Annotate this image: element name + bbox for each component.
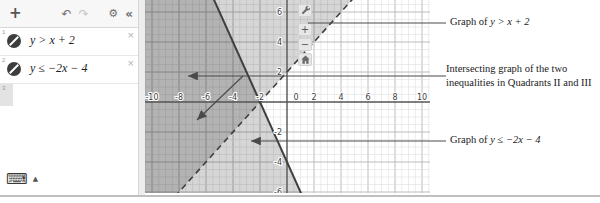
home-icon xyxy=(300,54,311,65)
annotation-line-1: Intersecting graph of the two xyxy=(446,62,592,76)
inequality-style-icon[interactable] xyxy=(7,34,21,48)
expression-row-3-empty[interactable]: 3 xyxy=(0,84,139,106)
expression-text[interactable]: y > x + 2 xyxy=(30,33,75,48)
keyboard-up-arrow-icon: ▲ xyxy=(33,176,38,183)
zoom-in-button[interactable]: + xyxy=(298,23,312,36)
annotation-graph-1: Graph of y > x + 2 xyxy=(450,16,530,27)
expression-text[interactable]: y ≤ −2x − 4 xyxy=(30,61,87,76)
annotation-area: Graph of y > x + 2 Intersecting graph of… xyxy=(430,0,600,195)
keyboard-toggle-button[interactable]: ⌨ ▲ xyxy=(6,172,38,187)
keyboard-row: ⌨ ▲ xyxy=(6,172,38,187)
graph-controls: + − xyxy=(298,4,312,68)
svg-text:-6: -6 xyxy=(274,188,282,194)
svg-text:2: 2 xyxy=(277,68,282,77)
annotation-graph-2: Graph of y ≤ −2x − 4 xyxy=(450,134,541,145)
svg-text:0: 0 xyxy=(293,93,298,102)
settings-gear-icon[interactable]: ⚙ xyxy=(108,8,118,19)
annotation-math: y ≤ −2x − 4 xyxy=(490,134,540,145)
svg-text:-2: -2 xyxy=(256,93,264,102)
svg-text:-8: -8 xyxy=(175,93,183,102)
undo-icon[interactable]: ↶ xyxy=(62,8,72,20)
svg-text:-10: -10 xyxy=(145,93,158,102)
svg-text:-2: -2 xyxy=(274,128,282,137)
svg-text:4: 4 xyxy=(277,38,282,47)
svg-text:6: 6 xyxy=(365,93,370,102)
annotation-intersection: Intersecting graph of the two inequaliti… xyxy=(446,62,592,89)
expression-list: 1 y > x + 2 × 2 y ≤ −2x − 4 × 3 xyxy=(0,28,139,106)
redo-icon[interactable]: ↷ xyxy=(79,8,89,20)
zoom-out-button[interactable]: − xyxy=(298,38,312,51)
svg-text:8: 8 xyxy=(392,93,397,102)
inequality-style-icon[interactable] xyxy=(7,62,21,76)
expression-toolbar: + ↶ ↷ ⚙ « xyxy=(0,0,139,28)
annotation-line-2: inequalities in Quadrants II and III xyxy=(446,76,592,90)
panel-resize-handle[interactable] xyxy=(138,0,145,195)
expression-index: 3 xyxy=(2,85,5,91)
desmos-screenshot-root: + ↶ ↷ ⚙ « 1 y > x + 2 × 2 y ≤ −2x − 4 × … xyxy=(0,0,600,203)
svg-text:-4: -4 xyxy=(274,158,282,167)
expression-row-1[interactable]: 1 y > x + 2 × xyxy=(0,28,139,56)
collapse-panel-icon[interactable]: « xyxy=(125,8,133,20)
expression-row-2[interactable]: 2 y ≤ −2x − 4 × xyxy=(0,56,139,84)
delete-expression-icon[interactable]: × xyxy=(128,30,134,41)
keyboard-icon: ⌨ xyxy=(6,172,28,187)
svg-text:-6: -6 xyxy=(202,93,210,102)
graph-canvas[interactable]: -10-8-6-4-20246810642-2-4-6 + − xyxy=(145,0,430,193)
svg-text:4: 4 xyxy=(338,93,343,102)
bottom-border-line xyxy=(0,195,600,197)
expression-index: 1 xyxy=(2,29,5,35)
delete-expression-icon[interactable]: × xyxy=(128,58,134,69)
graph-settings-wrench-icon[interactable] xyxy=(298,4,312,17)
annotation-math: y > x + 2 xyxy=(490,16,529,27)
annotation-prefix: Graph of xyxy=(450,16,490,27)
svg-text:-4: -4 xyxy=(229,93,237,102)
expression-panel: + ↶ ↷ ⚙ « 1 y > x + 2 × 2 y ≤ −2x − 4 × … xyxy=(0,0,145,195)
svg-text:6: 6 xyxy=(277,8,282,17)
default-view-home-button[interactable] xyxy=(298,53,312,66)
svg-text:10: 10 xyxy=(417,93,427,102)
empty-row-gutter: 3 xyxy=(0,84,13,106)
expression-index: 2 xyxy=(2,57,5,63)
svg-text:2: 2 xyxy=(311,93,316,102)
annotation-prefix: Graph of xyxy=(450,134,490,145)
add-expression-button[interactable]: + xyxy=(9,6,22,21)
wrench-icon xyxy=(300,5,311,16)
inequality-graph: -10-8-6-4-20246810642-2-4-6 xyxy=(145,0,430,193)
